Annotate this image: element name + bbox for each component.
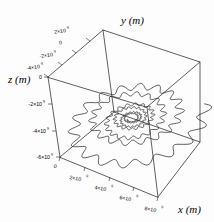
y-tick-mark [86, 38, 90, 41]
x-tick-mark [133, 187, 134, 191]
y-tick-exponent: 9 [54, 50, 57, 54]
z-tick-exponent: 9 [43, 100, 45, 104]
y-tick-label: 0 [58, 39, 62, 45]
box-bottom-face [60, 112, 200, 197]
z-tick-exponent: 9 [51, 153, 53, 157]
box-top-face [48, 30, 200, 107]
y-axis-label: y (m) [120, 14, 144, 27]
y-tick-label: -4×10 [26, 63, 40, 71]
z-tick-exponent: 9 [47, 127, 49, 131]
box-edge-back-vertical [103, 30, 114, 112]
x-tick-mark [157, 197, 158, 201]
plot-canvas: z (m) y (m) x (m) 2×10 9 0 -2×10 9 -4×10… [0, 0, 214, 222]
y-tick-mark [72, 50, 76, 53]
x-tick-label: 8×10 [144, 205, 157, 213]
y-tick-exponent: 9 [41, 62, 44, 66]
x-tick-label: 0 [53, 163, 57, 169]
x-tick-exponent: 9 [161, 205, 164, 209]
x-tick-labels: 0 2×10 9 4×10 9 6×10 9 8×10 9 [53, 163, 163, 213]
x-tick-mark [84, 167, 85, 171]
y-tick-exponent: 9 [67, 26, 70, 30]
x-tick-label: 2×10 [69, 174, 82, 182]
box-wireframe [48, 30, 200, 197]
z-tick-label: -6×10 [37, 154, 51, 160]
x-tick-exponent: 9 [111, 184, 114, 188]
y-tick-mark [58, 62, 62, 65]
x-axis-label: x (m) [177, 203, 201, 216]
z-tick-label: -4×10 [33, 128, 47, 134]
z-axis-label: z (m) [7, 73, 31, 86]
y-tick-mark [44, 74, 48, 77]
x-tick-label: 6×10 [119, 194, 132, 202]
y-tick-label: -2×10 [39, 51, 53, 59]
z-tick-label: 0 [39, 74, 42, 80]
x-tick-exponent: 9 [136, 194, 139, 198]
x-tick-exponent: 9 [86, 174, 89, 178]
x-tick-label: 4×10 [94, 184, 107, 192]
x-tick-mark [59, 157, 60, 161]
tick-marks [44, 38, 158, 201]
box-edge-left-vertical [48, 77, 60, 157]
y-tick-label: 2×10 [54, 27, 67, 35]
figure-3d-trajectory-plot: z (m) y (m) x (m) 2×10 9 0 -2×10 9 -4×10… [0, 0, 214, 222]
z-tick-label: -2×10 [29, 101, 43, 107]
